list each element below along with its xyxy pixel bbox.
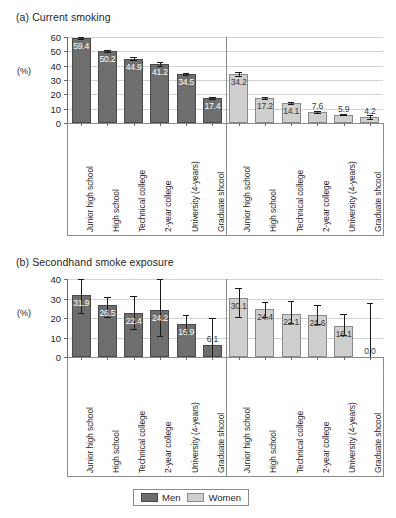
x-tick-label: Technical college (295, 170, 305, 232)
panel-b-title: (b) Secondhand smoke exposure (16, 256, 174, 268)
y-tick-label: 10 (50, 103, 61, 114)
error-bar-cap (367, 303, 373, 304)
bar-value-label: 6.1 (195, 334, 229, 344)
x-tickmark (107, 357, 108, 360)
x-tick-label: Graduate shcool (373, 413, 383, 473)
x-tickmark (81, 357, 82, 360)
x-tickmark (317, 357, 318, 360)
x-tickmark (265, 123, 266, 126)
panel-a-plot: 59.450.244.941.234.517.434.217.214.17.65… (68, 37, 383, 236)
x-tickmark (160, 123, 161, 126)
error-bar-cap (314, 113, 320, 114)
error-bar-cap (78, 37, 84, 38)
bar-value-label: 21.6 (300, 318, 334, 328)
error-bar-cap (130, 329, 136, 330)
error-bar (160, 279, 161, 336)
x-tickmark (239, 123, 240, 126)
x-tick-label: 2-year college (321, 181, 331, 232)
legend-label-women: Women (208, 492, 241, 503)
error-bar-cap (235, 72, 241, 73)
x-tick-label: Junior high school (85, 166, 95, 232)
x-tickmark (317, 123, 318, 126)
x-tick-label: High school (268, 430, 278, 473)
bar-value-label: 34.2 (222, 77, 256, 87)
legend-item-women: Women (187, 492, 241, 503)
bar-value-label: 41.2 (143, 67, 177, 77)
x-tickmark (370, 123, 371, 126)
y-tick-label: 40 (50, 274, 61, 285)
error-bar-cap (78, 279, 84, 280)
error-bar-cap (235, 317, 241, 318)
y-tick-label: 30 (50, 293, 61, 304)
x-tick-label: High school (111, 189, 121, 232)
legend-item-men: Men (141, 492, 180, 503)
x-tickmark (344, 123, 345, 126)
y-tick-label: 60 (50, 32, 61, 43)
error-bar-cap (288, 104, 294, 105)
legend-swatch-men-icon (141, 493, 158, 502)
x-tick-label: High school (268, 189, 278, 232)
legend: Men Women (133, 489, 249, 506)
y-tick-label: 0 (56, 352, 61, 363)
x-tickmark (160, 357, 161, 360)
error-bar-cap (157, 62, 163, 63)
error-bar-cap (157, 279, 163, 280)
error-bar-cap (288, 102, 294, 103)
x-tick-label: Junior high school (85, 407, 95, 473)
panel-a-title: (a) Current smoking (16, 11, 111, 23)
error-bar-cap (104, 50, 110, 51)
x-tickmark (212, 123, 213, 126)
legend-swatch-women-icon (187, 493, 204, 502)
x-tick-label: Junior high school (242, 407, 252, 473)
x-tick-label: University (4-years) (190, 402, 200, 473)
error-bar-cap (130, 57, 136, 58)
y-axis (67, 37, 68, 123)
legend-label-men: Men (162, 492, 180, 503)
x-tickmark (186, 357, 187, 360)
x-tickmark (344, 357, 345, 360)
bar-value-label: 31.9 (64, 298, 98, 308)
bar-value-label: 4.2 (353, 106, 387, 116)
x-tickmark (134, 357, 135, 360)
error-bar-cap (367, 119, 373, 120)
y-tick-label: 20 (50, 313, 61, 324)
panel-secondhand-smoke: (b) Secondhand smoke exposure (%) 31.926… (0, 245, 396, 490)
error-bar-cap (78, 39, 84, 40)
error-bar-cap (130, 296, 136, 297)
x-tick-label: University (4-years) (347, 402, 357, 473)
error-bar-cap (262, 302, 268, 303)
y-tick-label: 30 (50, 75, 61, 86)
x-tick-label: 2-year college (163, 422, 173, 473)
error-bar-cap (157, 336, 163, 337)
panel-b-ylabel: (%) (17, 308, 31, 318)
y-tick-label: 20 (50, 89, 61, 100)
x-tickmark (186, 123, 187, 126)
error-bar-cap (235, 288, 241, 289)
x-tick-label: High school (111, 430, 121, 473)
bar-value-label: 30.1 (222, 301, 256, 311)
error-bar-cap (262, 99, 268, 100)
y-tick-label: 40 (50, 60, 61, 71)
panel-a-ylabel: (%) (17, 66, 31, 76)
x-tickmark (370, 357, 371, 360)
x-tick-label: Technical college (137, 411, 147, 473)
x-tick-label: Graduate shcool (216, 172, 226, 232)
x-tick-label: Graduate shcool (216, 413, 226, 473)
bar-value-label: 34.5 (169, 77, 203, 87)
bar-value-label: 16.1 (327, 329, 361, 339)
x-tick-label: 2-year college (321, 422, 331, 473)
x-tickmark (212, 357, 213, 360)
y-axis (67, 279, 68, 357)
error-bar-cap (183, 73, 189, 74)
x-tick-label: University (4-years) (190, 161, 200, 232)
error-bar-cap (288, 301, 294, 302)
y-tick-label: 10 (50, 332, 61, 343)
panel-current-smoking: (a) Current smoking (%) 59.450.244.941.2… (0, 0, 396, 245)
x-tick-label: Technical college (137, 170, 147, 232)
x-tick-label: Graduate shcool (373, 172, 383, 232)
error-bar-cap (183, 315, 189, 316)
error-bar-cap (209, 97, 215, 98)
bar-value-label: 0.0 (353, 346, 387, 356)
x-tickmark (134, 123, 135, 126)
error-bar-cap (183, 75, 189, 76)
